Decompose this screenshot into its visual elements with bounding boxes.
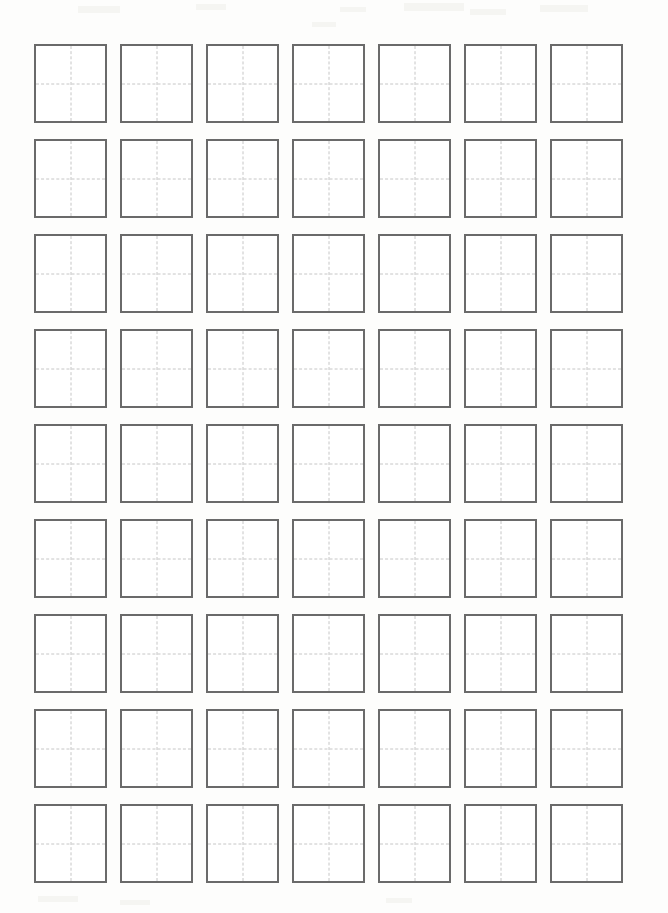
grid-cell[interactable] bbox=[464, 139, 537, 218]
grid-cell[interactable] bbox=[464, 424, 537, 503]
grid-cell[interactable] bbox=[120, 329, 193, 408]
horizontal-guide-line bbox=[552, 558, 621, 559]
grid-cell[interactable] bbox=[378, 234, 451, 313]
grid-cell[interactable] bbox=[550, 234, 623, 313]
horizontal-guide-line bbox=[208, 653, 277, 654]
grid-cell[interactable] bbox=[34, 804, 107, 883]
scan-artifact bbox=[78, 6, 120, 13]
grid-cell[interactable] bbox=[120, 519, 193, 598]
grid-cell[interactable] bbox=[378, 424, 451, 503]
grid-cell[interactable] bbox=[120, 424, 193, 503]
horizontal-guide-line bbox=[380, 463, 449, 464]
horizontal-guide-line bbox=[36, 843, 105, 844]
grid-cell[interactable] bbox=[378, 139, 451, 218]
grid-cell[interactable] bbox=[34, 519, 107, 598]
horizontal-guide-line bbox=[294, 843, 363, 844]
horizontal-guide-line bbox=[122, 178, 191, 179]
scan-artifact bbox=[196, 4, 226, 10]
grid-cell[interactable] bbox=[464, 44, 537, 123]
grid-cell[interactable] bbox=[292, 424, 365, 503]
grid-cell[interactable] bbox=[120, 139, 193, 218]
grid-cell[interactable] bbox=[34, 139, 107, 218]
grid-cell[interactable] bbox=[120, 234, 193, 313]
grid-cell[interactable] bbox=[550, 44, 623, 123]
grid-cell[interactable] bbox=[378, 804, 451, 883]
grid-cell[interactable] bbox=[120, 709, 193, 788]
grid-cell[interactable] bbox=[550, 519, 623, 598]
grid-cell[interactable] bbox=[378, 329, 451, 408]
horizontal-guide-line bbox=[122, 463, 191, 464]
grid-cell[interactable] bbox=[378, 709, 451, 788]
scan-artifact bbox=[470, 9, 506, 15]
horizontal-guide-line bbox=[380, 178, 449, 179]
grid-cell[interactable] bbox=[34, 709, 107, 788]
horizontal-guide-line bbox=[466, 368, 535, 369]
horizontal-guide-line bbox=[208, 83, 277, 84]
grid-cell[interactable] bbox=[206, 44, 279, 123]
grid-cell[interactable] bbox=[206, 424, 279, 503]
horizontal-guide-line bbox=[552, 843, 621, 844]
grid-cell[interactable] bbox=[292, 709, 365, 788]
grid-cell[interactable] bbox=[34, 614, 107, 693]
grid-cell[interactable] bbox=[206, 519, 279, 598]
horizontal-guide-line bbox=[122, 368, 191, 369]
horizontal-guide-line bbox=[466, 653, 535, 654]
horizontal-guide-line bbox=[36, 273, 105, 274]
grid-cell[interactable] bbox=[464, 519, 537, 598]
grid-cell[interactable] bbox=[206, 614, 279, 693]
grid-cell[interactable] bbox=[292, 804, 365, 883]
horizontal-guide-line bbox=[208, 273, 277, 274]
horizontal-guide-line bbox=[208, 178, 277, 179]
grid-cell[interactable] bbox=[464, 614, 537, 693]
grid-cell[interactable] bbox=[206, 709, 279, 788]
grid-cell[interactable] bbox=[464, 709, 537, 788]
grid-cell[interactable] bbox=[550, 424, 623, 503]
grid-cell[interactable] bbox=[34, 44, 107, 123]
grid-cell[interactable] bbox=[378, 519, 451, 598]
scan-artifact bbox=[312, 22, 336, 27]
horizontal-guide-line bbox=[380, 653, 449, 654]
grid-cell[interactable] bbox=[34, 424, 107, 503]
horizontal-guide-line bbox=[36, 83, 105, 84]
grid-cell[interactable] bbox=[292, 519, 365, 598]
horizontal-guide-line bbox=[36, 463, 105, 464]
grid-cell[interactable] bbox=[292, 614, 365, 693]
grid-cell[interactable] bbox=[120, 804, 193, 883]
horizontal-guide-line bbox=[36, 558, 105, 559]
horizontal-guide-line bbox=[466, 748, 535, 749]
grid-cell[interactable] bbox=[464, 234, 537, 313]
grid-cell[interactable] bbox=[550, 614, 623, 693]
grid-cell[interactable] bbox=[292, 234, 365, 313]
grid-cell[interactable] bbox=[464, 804, 537, 883]
grid-cell[interactable] bbox=[120, 44, 193, 123]
horizontal-guide-line bbox=[380, 273, 449, 274]
grid-cell[interactable] bbox=[206, 329, 279, 408]
scan-artifact bbox=[404, 3, 464, 11]
horizontal-guide-line bbox=[122, 83, 191, 84]
horizontal-guide-line bbox=[294, 748, 363, 749]
grid-cell[interactable] bbox=[378, 614, 451, 693]
grid-cell[interactable] bbox=[206, 804, 279, 883]
horizontal-guide-line bbox=[122, 273, 191, 274]
horizontal-guide-line bbox=[294, 83, 363, 84]
grid-cell[interactable] bbox=[34, 329, 107, 408]
horizontal-guide-line bbox=[122, 748, 191, 749]
grid-cell[interactable] bbox=[206, 234, 279, 313]
grid-cell[interactable] bbox=[464, 329, 537, 408]
grid-cell[interactable] bbox=[292, 329, 365, 408]
grid-cell[interactable] bbox=[550, 329, 623, 408]
grid-cell[interactable] bbox=[292, 44, 365, 123]
grid-cell[interactable] bbox=[292, 139, 365, 218]
grid-cell[interactable] bbox=[120, 614, 193, 693]
grid-cell[interactable] bbox=[550, 804, 623, 883]
grid-cell[interactable] bbox=[378, 44, 451, 123]
grid-cell[interactable] bbox=[550, 709, 623, 788]
scan-artifact bbox=[38, 896, 78, 902]
horizontal-guide-line bbox=[122, 558, 191, 559]
grid-cell[interactable] bbox=[550, 139, 623, 218]
horizontal-guide-line bbox=[122, 653, 191, 654]
grid-cell[interactable] bbox=[34, 234, 107, 313]
horizontal-guide-line bbox=[466, 843, 535, 844]
grid-cell[interactable] bbox=[206, 139, 279, 218]
horizontal-guide-line bbox=[208, 368, 277, 369]
